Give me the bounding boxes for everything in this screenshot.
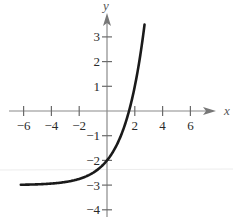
x-tick-label: −2 [72, 118, 86, 133]
function-curve [21, 25, 145, 185]
x-tick-label: 4 [159, 118, 166, 133]
x-tick-label: −6 [17, 118, 31, 133]
y-tick-label: −1 [86, 128, 100, 143]
y-tick-label: 1 [94, 79, 101, 94]
x-tick-label: 6 [187, 118, 194, 133]
y-tick-label: −3 [86, 178, 100, 193]
y-tick-label: −2 [86, 153, 100, 168]
tick-labels: −6−4−2246321−1−2−3−4 [17, 29, 194, 217]
x-tick-label: 2 [132, 118, 139, 133]
x-tick-label: −4 [44, 118, 58, 133]
y-tick-label: −4 [86, 202, 100, 217]
y-axis-label: y [101, 0, 109, 13]
function-graph: −6−4−2246321−1−2−3−4 x y [0, 0, 233, 217]
scan-artifact-line [0, 169, 233, 170]
x-axis-label: x [223, 103, 230, 118]
y-tick-label: 2 [94, 54, 101, 69]
axes [9, 13, 216, 217]
y-tick-label: 3 [94, 29, 101, 44]
